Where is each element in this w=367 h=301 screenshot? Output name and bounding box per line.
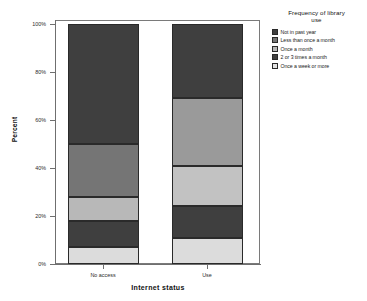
bar-use[interactable] [172, 24, 243, 264]
y-tick-label-20: 20% [0, 213, 46, 219]
y-tick-label-0: 0% [0, 261, 46, 267]
bar-segment-no-access-less-than-once-a-month[interactable] [68, 144, 139, 197]
bar-segment-no-access-once-a-month[interactable] [68, 197, 139, 221]
x-axis-line [55, 264, 261, 265]
legend-swatch-icon-not-in-past-year [272, 29, 278, 35]
y-tick-20 [50, 216, 55, 217]
y-tick-40 [50, 168, 55, 169]
stacked-bar-chart: Percent 100% 80% 60% 40% 20% 0% No acces… [0, 0, 367, 301]
y-axis-title: Percent [11, 100, 18, 160]
legend: Frequency of library use Not in past yea… [268, 6, 365, 70]
bar-segment-no-access-not-in-past-year[interactable] [68, 24, 139, 144]
x-tick-label-no-access: No access [73, 272, 133, 278]
bar-no-access[interactable] [68, 24, 139, 264]
y-tick-100 [50, 24, 55, 25]
legend-label-less-than-once-a-month: Less than once a month [281, 37, 335, 43]
legend-label-once-a-month: Once a month [281, 46, 313, 52]
legend-item-less-than-once-a-month[interactable]: Less than once a month [272, 36, 365, 44]
y-tick-label-100: 100% [0, 21, 46, 27]
x-tick-label-use: Use [177, 272, 237, 278]
legend-label-not-in-past-year: Not in past year [281, 29, 317, 35]
y-tick-label-60: 60% [0, 117, 46, 123]
legend-items: Not in past year Less than once a month … [272, 28, 365, 70]
bar-segment-use-less-than-once-a-month[interactable] [172, 98, 243, 165]
legend-item-once-a-month[interactable]: Once a month [272, 45, 365, 53]
bar-segment-use-once-a-week-or-more[interactable] [172, 238, 243, 264]
legend-title-line1: Frequency of library [288, 9, 345, 16]
legend-label-2-or-3-times-a-month: 2 or 3 times a month [281, 54, 327, 60]
x-tick-no-access [103, 265, 104, 269]
legend-item-2-or-3-times-a-month[interactable]: 2 or 3 times a month [272, 53, 365, 61]
legend-swatch-icon-less-than-once-a-month [272, 37, 278, 43]
legend-item-not-in-past-year[interactable]: Not in past year [272, 28, 365, 36]
legend-item-once-a-week-or-more[interactable]: Once a week or more [272, 61, 365, 69]
bar-segment-use-once-a-month[interactable] [172, 166, 243, 207]
bar-segment-no-access-once-a-week-or-more[interactable] [68, 247, 139, 264]
y-tick-label-40: 40% [0, 165, 46, 171]
legend-swatch-icon-once-a-week-or-more [272, 63, 278, 69]
bar-segment-use-not-in-past-year[interactable] [172, 24, 243, 98]
legend-swatch-icon-once-a-month [272, 46, 278, 52]
x-axis-title: Internet status [55, 284, 261, 291]
y-tick-80 [50, 72, 55, 73]
legend-swatch-icon-2-or-3-times-a-month [272, 54, 278, 60]
legend-title: Frequency of library use [270, 9, 363, 24]
bar-segment-no-access-2-or-3-times-a-month[interactable] [68, 221, 139, 247]
x-tick-use [207, 265, 208, 269]
y-tick-label-80: 80% [0, 69, 46, 75]
y-axis-line [55, 20, 56, 265]
legend-title-line2: use [311, 16, 321, 23]
legend-label-once-a-week-or-more: Once a week or more [281, 63, 330, 69]
bar-segment-use-2-or-3-times-a-month[interactable] [172, 206, 243, 237]
y-tick-60 [50, 120, 55, 121]
